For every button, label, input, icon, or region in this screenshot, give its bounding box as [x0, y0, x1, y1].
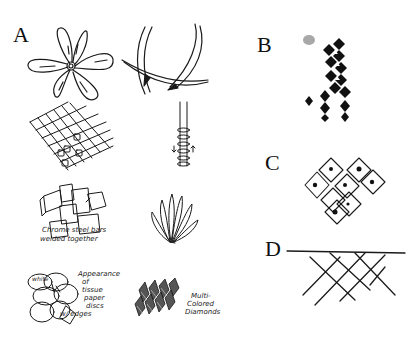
sketch-fan-leaves: [148, 190, 203, 245]
caption-discs-line-2: of: [78, 278, 120, 286]
caption-discs-line-4: paper: [78, 294, 120, 302]
sketch-flower: [25, 24, 120, 104]
panel-label-b: B: [257, 34, 272, 56]
panel-label-c: C: [265, 152, 280, 174]
caption-discs-line-6: w/ edges: [60, 310, 120, 318]
caption-diamonds-line-1: Multi-: [185, 292, 220, 300]
caption-discs-line-3: tissue: [78, 286, 120, 294]
sketch-panel-c: [303, 160, 398, 230]
sketch-diamonds: Multi- Colored Diamonds: [135, 280, 185, 320]
sketch-welded-boxes: Chrome steel bars welded together: [30, 182, 120, 247]
sketch-panel-b: [295, 30, 375, 125]
disc-inner-label: white: [32, 275, 48, 282]
sketch-grid-mesh: [28, 100, 118, 175]
sketch-thorn-stems: [120, 22, 215, 97]
sketch-wrapped-rod: [168, 100, 198, 170]
caption-discs: Appearance of tissue paper discs w/ edge…: [78, 270, 120, 318]
sketch-panel-d: [285, 245, 410, 305]
caption-welded-line2: welded together: [40, 235, 98, 243]
caption-discs-line-5: discs: [78, 302, 120, 310]
panel-label-d: D: [265, 238, 281, 260]
caption-diamonds: Multi- Colored Diamonds: [185, 292, 220, 316]
caption-welded-line1: Chrome steel bars: [42, 226, 106, 234]
caption-diamonds-line-2: Colored: [185, 300, 220, 308]
sketch-paper-discs: white Appearance of tissue paper discs w…: [20, 270, 120, 340]
caption-diamonds-line-3: Diamonds: [185, 308, 220, 316]
caption-discs-line-1: Appearance: [78, 270, 120, 278]
